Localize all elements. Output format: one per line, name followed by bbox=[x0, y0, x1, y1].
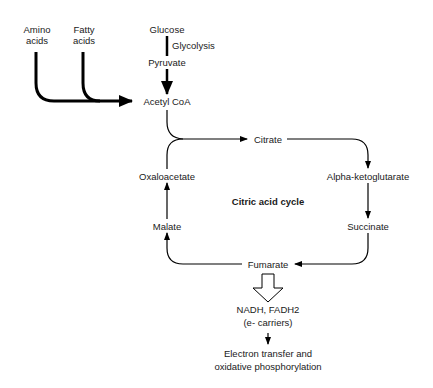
label-electron-transfer: Electron transfer and bbox=[224, 348, 312, 359]
label-acetyl-coa: Acetyl CoA bbox=[144, 96, 191, 107]
label-oxaloacetate: Oxaloacetate bbox=[139, 171, 195, 182]
oxaloacetate-to-citrate bbox=[167, 139, 247, 169]
label-fumarate: Fumarate bbox=[248, 259, 289, 270]
label-glycolysis: Glycolysis bbox=[172, 40, 215, 51]
label-succinate: Succinate bbox=[347, 221, 389, 232]
label-citrate: Citrate bbox=[254, 134, 282, 145]
citrate-to-akg bbox=[287, 139, 368, 168]
pathway-arrows bbox=[0, 0, 433, 388]
label-alpha-ketoglutarate: Alpha-ketoglutarate bbox=[327, 171, 409, 182]
fatty-line1: Fatty bbox=[73, 24, 95, 35]
fumarate-to-malate bbox=[167, 233, 242, 264]
label-oxidative-phosphorylation: oxidative phosphorylation bbox=[214, 361, 321, 372]
label-carriers: NADH, FADH2 bbox=[237, 304, 300, 315]
amino-line2: acids bbox=[24, 35, 51, 46]
succinate-to-fumarate bbox=[295, 233, 368, 264]
fatty-acids-arrow bbox=[83, 52, 100, 101]
label-carriers-note: (e- carriers) bbox=[243, 317, 292, 328]
label-amino-acids: Amino acids bbox=[24, 24, 51, 46]
fatty-line2: acids bbox=[73, 35, 95, 46]
acetyl-coa-entry bbox=[167, 110, 183, 139]
label-malate: Malate bbox=[153, 221, 182, 232]
label-fatty-acids: Fatty acids bbox=[73, 24, 95, 46]
cycle-title: Citric acid cycle bbox=[232, 196, 304, 207]
amino-line1: Amino bbox=[24, 24, 51, 35]
label-glucose: Glucose bbox=[150, 24, 185, 35]
hollow-output-arrow bbox=[253, 274, 283, 302]
label-pyruvate: Pyruvate bbox=[148, 57, 186, 68]
